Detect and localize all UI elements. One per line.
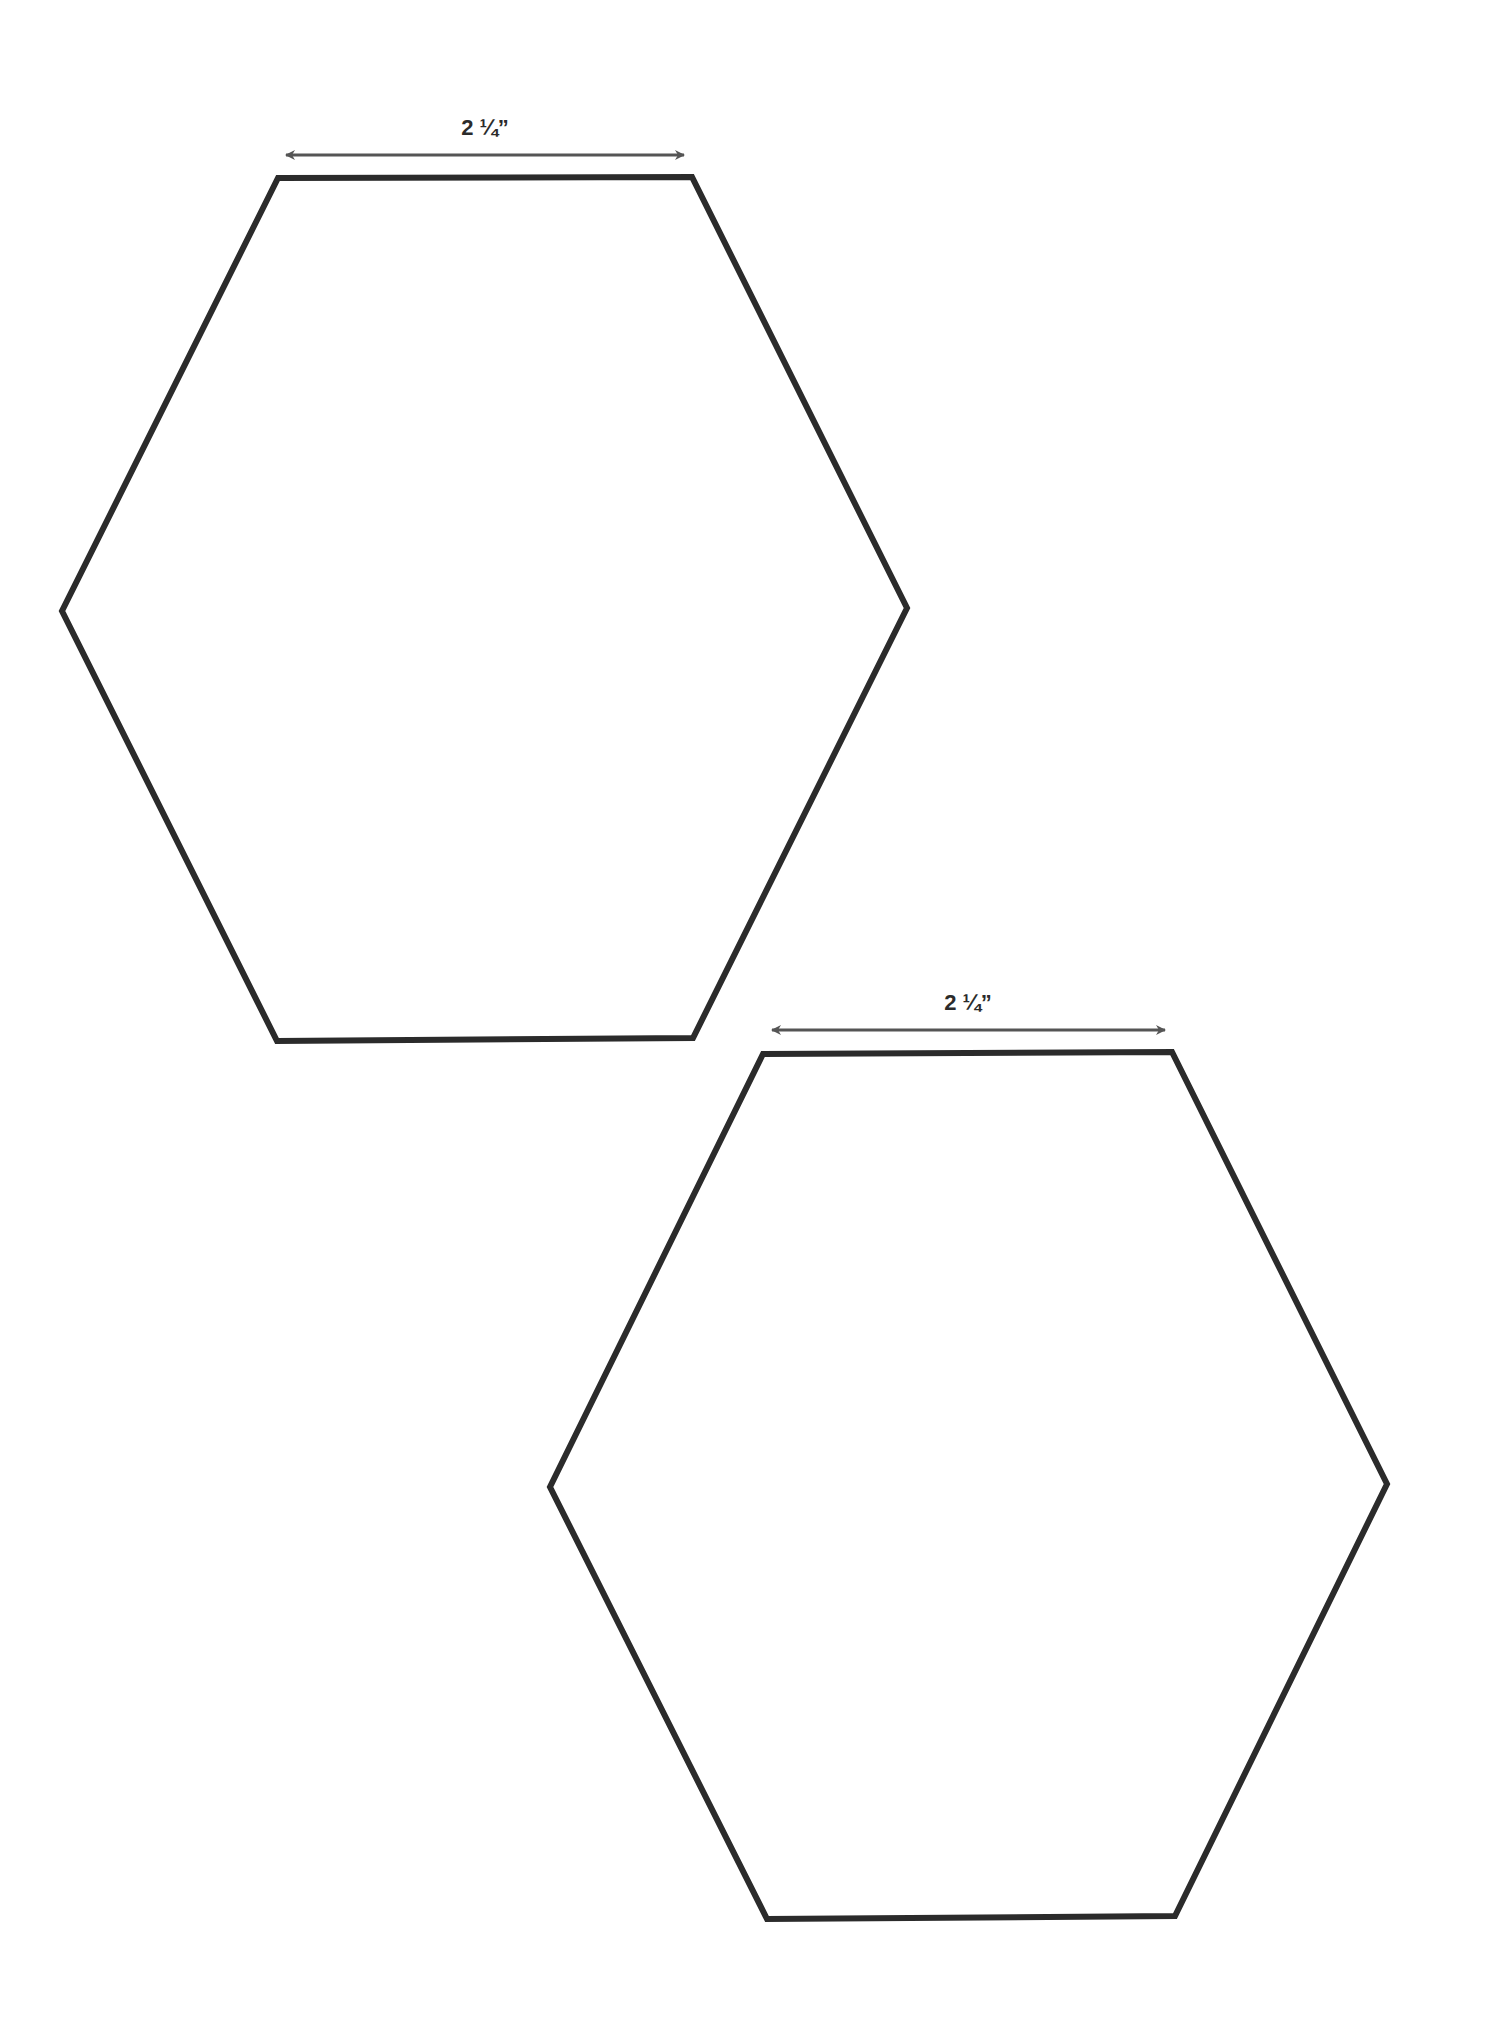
hexagon-1-side-label: 2 ¼” — [461, 115, 509, 140]
hexagon-template-canvas: 2 ¼” 2 ¼” — [0, 0, 1494, 2037]
hexagon-1-outline — [62, 177, 907, 1041]
hexagon-1-group: 2 ¼” — [62, 115, 907, 1041]
hexagon-2-group: 2 ¼” — [550, 990, 1387, 1919]
hexagon-2-side-label: 2 ¼” — [944, 990, 992, 1015]
hexagon-2-outline — [550, 1052, 1387, 1919]
